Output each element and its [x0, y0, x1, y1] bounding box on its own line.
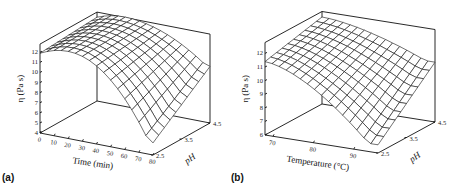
z-tick-label: 8 [35, 89, 38, 96]
surface-plot-b: 67891011127080902.53.54.5η (Pa s)Tempera… [240, 12, 446, 173]
x-tick-label: 40 [92, 146, 100, 154]
panel-label-a: (a) [2, 172, 14, 183]
panel-label-b: (b) [231, 172, 244, 183]
x-tick-label: 50 [106, 149, 114, 157]
surface-mesh [40, 16, 210, 143]
z-tick-label: 10 [32, 68, 39, 75]
x-axis-line [265, 135, 378, 153]
z-axis-label: η (Pa s) [240, 75, 250, 103]
x-tick-label: 70 [135, 155, 143, 163]
y-tick-label: 2.5 [156, 152, 164, 159]
z-tick-label: 11 [257, 63, 263, 70]
surface-mesh [265, 17, 435, 145]
z-tick-label: 11 [32, 58, 38, 65]
z-tick-label: 8 [260, 104, 263, 111]
y-tick-label: 3.5 [185, 136, 193, 143]
y-tick-label: 2.5 [381, 150, 389, 157]
x-axis-label: Time (min) [72, 155, 114, 171]
surface-plot-a: 456789101112010203040506070802.53.54.5η … [15, 12, 221, 171]
y-tick-label: 4.5 [438, 119, 446, 126]
x-axis-label: Temperature (°C) [286, 154, 350, 173]
x-tick-label: 0 [37, 136, 41, 143]
z-tick-label: 7 [260, 117, 264, 124]
x-tick-label: 70 [269, 139, 277, 147]
z-tick-label: 10 [257, 77, 264, 84]
x-tick-label: 30 [78, 144, 86, 152]
z-tick-label: 6 [35, 109, 39, 116]
z-tick-label: 12 [257, 49, 264, 56]
z-tick-label: 9 [260, 90, 263, 97]
x-tick-label: 20 [64, 141, 72, 149]
z-tick-label: 7 [35, 99, 39, 106]
y-tick-label: 3.5 [410, 135, 418, 142]
y-axis-label: pH [407, 150, 423, 165]
z-tick-label: 6 [260, 131, 264, 138]
x-tick-label: 60 [120, 152, 128, 160]
floor-left-edge [40, 101, 97, 133]
y-axis-label: pH [182, 151, 198, 166]
x-tick-label: 80 [309, 145, 317, 153]
z-axis-label: η (Pa s) [15, 75, 25, 103]
z-tick-label: 9 [35, 79, 38, 86]
floor-left-edge [265, 104, 322, 135]
z-tick-label: 12 [32, 48, 39, 55]
x-tick-label: 10 [50, 138, 58, 146]
z-tick-label: 5 [35, 119, 38, 126]
y-tick-label: 4.5 [213, 120, 221, 127]
x-tick-label: 90 [349, 152, 357, 160]
figure: 456789101112010203040506070802.53.54.5η … [0, 0, 459, 186]
